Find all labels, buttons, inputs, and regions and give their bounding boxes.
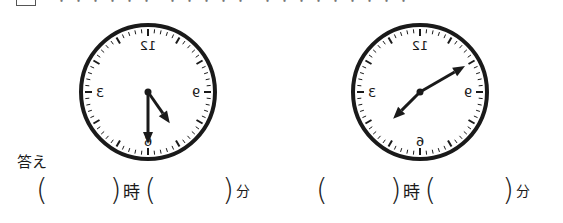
close-paren: ) xyxy=(390,170,402,210)
open-paren: ( xyxy=(144,170,156,210)
clock-center-hub xyxy=(417,89,424,96)
answer-row-1: ( ) 時 ( ) 分 xyxy=(36,170,254,210)
close-paren: ) xyxy=(110,170,122,210)
hour-unit: 時 xyxy=(123,178,140,203)
clock-center-hub xyxy=(145,89,152,96)
close-paren: ) xyxy=(502,170,514,210)
clock-numeral-12: 12 xyxy=(412,38,429,53)
clock-face-1: 12963 xyxy=(78,22,218,162)
clock-numeral-12: 12 xyxy=(140,38,157,53)
cutoff-instruction-strip: ・・・・・・ ・・・・・ ・・・・・・・・・ xyxy=(0,0,563,6)
close-paren: ) xyxy=(222,170,234,210)
instruction-text: ・・・・・・ ・・・・・ ・・・・・・・・・ xyxy=(56,0,415,8)
clock-numeral-3: 3 xyxy=(368,85,376,100)
answer-row-2: ( ) 時 ( ) 分 xyxy=(316,170,534,210)
open-paren: ( xyxy=(424,170,436,210)
question-number-box xyxy=(16,0,36,6)
minute-unit: 分 xyxy=(516,180,530,200)
clock-numeral-9: 9 xyxy=(464,85,472,100)
clock-numeral-9: 9 xyxy=(192,85,200,100)
answer-label: 答え xyxy=(17,150,47,171)
hour-unit: 時 xyxy=(403,178,420,203)
minute-unit: 分 xyxy=(236,180,250,200)
clock-numeral-6: 6 xyxy=(416,134,424,149)
clock-face-2: 12963 xyxy=(350,22,490,162)
open-paren: ( xyxy=(36,170,48,210)
clock-numeral-3: 3 xyxy=(96,85,104,100)
open-paren: ( xyxy=(316,170,328,210)
